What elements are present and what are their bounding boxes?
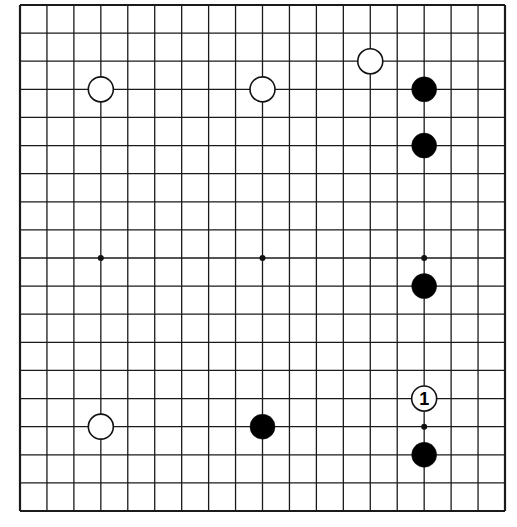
- star-point: [421, 255, 427, 261]
- white-stone[interactable]: [88, 77, 113, 102]
- go-board[interactable]: 1: [0, 0, 517, 527]
- black-stone[interactable]: [412, 442, 437, 467]
- black-stone[interactable]: [412, 77, 437, 102]
- move-number-label: 1: [419, 389, 429, 409]
- white-stone-numbered[interactable]: 1: [412, 386, 437, 411]
- black-stone[interactable]: [250, 414, 275, 439]
- black-stone[interactable]: [412, 274, 437, 299]
- white-stone[interactable]: [358, 49, 383, 74]
- star-point: [98, 255, 104, 261]
- star-point: [421, 424, 427, 430]
- white-stone[interactable]: [250, 77, 275, 102]
- black-stone[interactable]: [412, 133, 437, 158]
- white-stone[interactable]: [88, 414, 113, 439]
- star-point: [260, 255, 266, 261]
